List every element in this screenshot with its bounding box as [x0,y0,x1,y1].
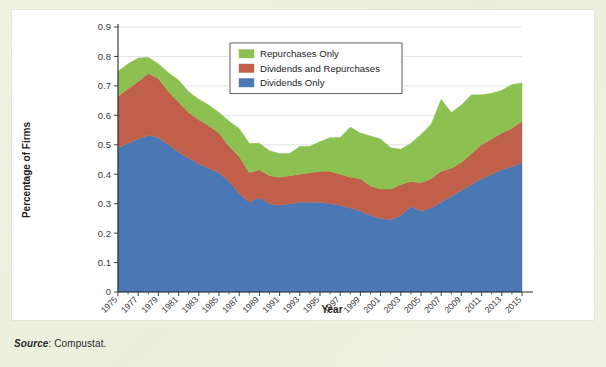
figure-root: 00.10.20.30.40.50.60.70.80.9 19751977197… [0,0,606,367]
y-tick-label: 0.8 [98,51,111,62]
y-axis-title: Percentage of Firms [21,121,32,218]
x-tick-label: 2009 [442,294,463,315]
x-tick-label: 1993 [281,294,302,315]
legend-label: Repurchases Only [260,48,339,59]
x-tick-label: 1979 [139,294,160,315]
x-tick-label: 1999 [341,294,362,315]
legend-swatch [239,50,254,59]
x-tick-label: 1989 [240,294,261,315]
y-tick-label: 0.4 [98,169,111,180]
x-tick-label: 2003 [382,294,403,315]
x-tick-label: 1981 [159,294,180,315]
stacked-area-chart: 00.10.20.30.40.50.60.70.80.9 19751977197… [12,10,594,320]
source-label: Source [14,338,49,349]
x-axis [118,292,533,296]
y-tick-label: 0.1 [98,257,111,268]
legend-swatch [239,64,254,73]
x-tick-label: 1975 [99,294,120,315]
x-tick-label: 1985 [200,294,221,315]
source-caption: Source: Compustat. [14,338,106,349]
y-axis [114,24,118,292]
y-tick-label: 0.2 [98,228,111,239]
x-tick-label: 2005 [402,294,423,315]
y-tick-label: 0.3 [98,198,111,209]
y-tick-label: 0.6 [98,110,111,121]
x-tick-label: 1991 [260,294,281,315]
x-tick-label: 1987 [220,294,241,315]
x-tick-label: 2015 [503,294,524,315]
x-tick-label: 1977 [119,294,140,315]
x-tick-label: 2013 [483,294,504,315]
chart-panel: 00.10.20.30.40.50.60.70.80.9 19751977197… [12,10,594,320]
x-tick-label: 1983 [180,294,201,315]
y-tick-label: 0.7 [98,80,111,91]
x-tick-label: 2007 [422,294,443,315]
x-axis-title: Year [321,304,342,315]
chart-legend: Repurchases OnlyDividends and Repurchase… [230,43,402,94]
legend-swatch [239,79,254,88]
x-tick-label: 2001 [361,294,382,315]
x-tick-label: 1995 [301,294,322,315]
legend-label: Dividends Only [260,77,325,88]
x-tick-label: 2011 [463,294,483,314]
y-tick-label: 0.5 [98,139,111,150]
y-tick-label: 0.9 [98,21,111,32]
source-value: : Compustat. [49,338,107,349]
y-axis-tick-labels: 00.10.20.30.40.50.60.70.80.9 [98,21,111,297]
legend-label: Dividends and Repurchases [260,63,380,74]
x-axis-tick-labels: 1975197719791981198319851987198919911993… [99,294,524,315]
